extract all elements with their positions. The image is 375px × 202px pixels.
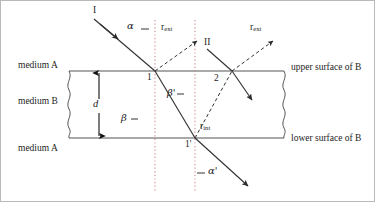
r-ext-left-subscript: ext bbox=[164, 25, 172, 32]
angle-tick-marks-group bbox=[131, 29, 205, 173]
medium-a-top-label: medium A bbox=[18, 61, 58, 71]
ray-one-refracted-segment bbox=[155, 71, 195, 138]
slab-left-break-edge bbox=[68, 71, 70, 138]
slab-right-break-edge bbox=[283, 71, 285, 138]
slab-medium-b bbox=[68, 71, 285, 138]
ray-one-path-group bbox=[94, 19, 248, 186]
angle-beta-prime-label: β' bbox=[167, 88, 176, 98]
ray-two-incident-segment bbox=[207, 49, 232, 71]
angle-alpha-prime-label: α' bbox=[208, 166, 218, 176]
r-ext-reflected-ray-at-point-1 bbox=[155, 41, 197, 71]
lower-surface-label: lower surface of B bbox=[291, 134, 361, 144]
r-int-subscript: int bbox=[203, 124, 210, 131]
r-int-label: rint bbox=[200, 122, 210, 132]
ray-two-transmitted-segment bbox=[232, 71, 252, 100]
angle-alpha-label: α bbox=[127, 21, 134, 31]
point-one-prime-label: 1' bbox=[185, 140, 191, 150]
medium-b-label: medium B bbox=[18, 97, 58, 107]
ray-one-label: I bbox=[93, 6, 96, 16]
ray-one-incident-arrow bbox=[100, 24, 118, 39]
point-one-label: 1 bbox=[147, 73, 152, 83]
angle-beta-label: β bbox=[121, 113, 127, 123]
ray-one-emergent-segment bbox=[195, 138, 248, 186]
r-ext-reflected-ray-at-point-2 bbox=[232, 41, 273, 71]
optics-ray-diagram-figure: I α rext rext II medium A medium B mediu… bbox=[0, 0, 375, 202]
thickness-label: d bbox=[93, 99, 98, 110]
medium-a-bottom-label: medium A bbox=[18, 144, 58, 154]
point-two-label: 2 bbox=[214, 74, 219, 84]
ray-two-label: II bbox=[204, 38, 210, 48]
r-ext-right-label: rext bbox=[250, 23, 262, 33]
upper-surface-label: upper surface of B bbox=[291, 63, 361, 73]
r-ext-right-subscript: ext bbox=[253, 25, 261, 32]
r-ext-left-label: rext bbox=[161, 23, 173, 33]
